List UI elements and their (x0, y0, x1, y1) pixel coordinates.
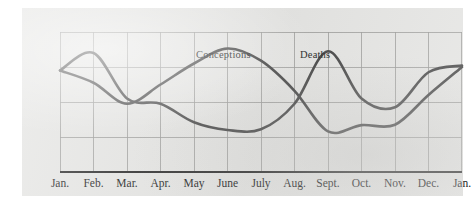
series-label-deaths: Deaths (300, 50, 330, 61)
x-axis-labels: Jan.Feb.Mar.Apr.MayJuneJulyAug.Sept.Oct.… (60, 178, 462, 198)
x-tick-label-12: Jan. (439, 178, 474, 190)
plot-area: Conceptions Deaths (60, 32, 462, 172)
figure-panel: Conceptions Deaths Jan.Feb.Mar.Apr.MayJu… (22, 8, 463, 196)
series-layer (60, 48, 462, 133)
chart-canvas (60, 32, 462, 172)
series-label-conceptions: Conceptions (196, 50, 251, 61)
